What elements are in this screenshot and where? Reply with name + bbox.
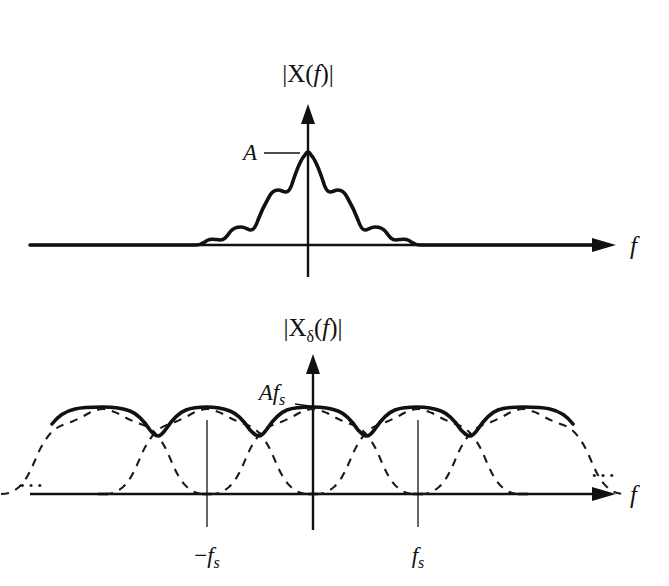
amplitude-label-A: A: [241, 140, 258, 165]
ellipsis-right: …: [590, 454, 618, 483]
spectrum-figure: |X(f)| f A |Xδ(f)| f: [0, 0, 669, 586]
x-axis-label-sampled: f: [630, 481, 640, 508]
title-suffix-sampled: )|: [329, 314, 342, 342]
title-open-paren: (: [314, 314, 322, 342]
y-axis-arrow-continuous: [301, 104, 315, 124]
panel-sampled-spectrum: |Xδ(f)| f −fs fs Afs: [1, 314, 640, 571]
amplitude-label-Afs: Afs: [257, 380, 286, 408]
y-axis-arrow-sampled: [306, 354, 320, 374]
x-axis-label-continuous: f: [630, 232, 640, 259]
ellipsis-left: …: [18, 464, 46, 493]
tick-subscript-s-pos: s: [418, 554, 424, 571]
x-axis-arrow-continuous: [592, 238, 616, 252]
title-subscript-delta: δ: [306, 328, 314, 345]
title-prefix-sampled: |X: [283, 314, 306, 341]
tick-subscript-s-neg: s: [214, 554, 220, 571]
tick-label-fs: fs: [412, 543, 425, 571]
spectrum-curve-continuous: [30, 152, 592, 245]
panel-continuous-spectrum: |X(f)| f A: [30, 60, 640, 277]
panel-title-sampled: |Xδ(f)|: [283, 314, 342, 345]
x-axis-arrow-sampled: [592, 487, 616, 501]
title-suffix: )|: [321, 60, 334, 88]
panel-title-continuous: |X(f)|: [282, 60, 334, 88]
amplitude-base-A: A: [257, 380, 274, 405]
amplitude-subscript-s: s: [279, 391, 285, 408]
figure-root: |X(f)| f A |Xδ(f)| f: [0, 0, 669, 586]
tick-label-minus-fs: −fs: [194, 543, 220, 571]
tick-minus-sign: −: [194, 543, 207, 568]
title-prefix: |X(: [282, 60, 313, 88]
